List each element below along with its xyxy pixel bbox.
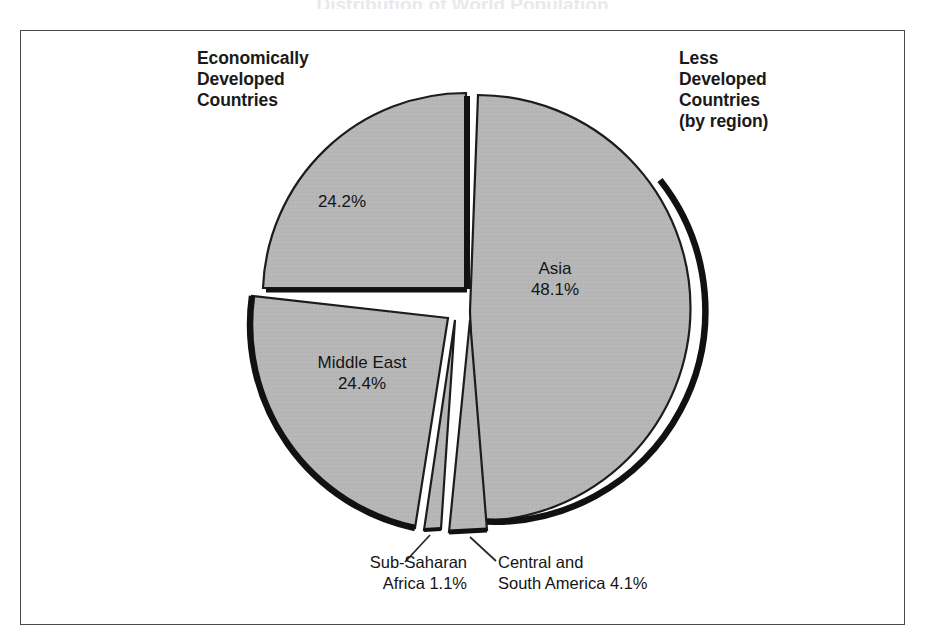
slice-label-central-south-america: Central and South America 4.1% (498, 552, 718, 594)
pie-slice-middle-east[interactable] (250, 296, 448, 528)
slice-label-sub-saharan-africa: Sub-Saharan Africa 1.1% (267, 552, 467, 594)
pie-slice-asia[interactable] (470, 95, 705, 522)
group-label-less-developed: Less Developed Countries (by region) (679, 48, 768, 132)
group-label-economically-developed: Economically Developed Countries (197, 48, 309, 111)
figure-canvas: Distribution of World Population (0, 0, 925, 639)
leader-line-central-south-america (470, 537, 496, 561)
pie-chart (0, 0, 925, 639)
slice-label-middle-east: Middle East 24.4% (282, 352, 442, 394)
slice-label-asia: Asia 48.1% (500, 258, 610, 300)
pie-slices (250, 93, 705, 532)
slice-label-economically-developed: 24.2% (292, 191, 392, 212)
